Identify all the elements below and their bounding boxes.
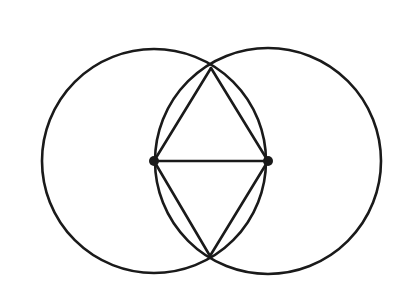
segment-left-to-top [154, 68, 211, 161]
segment-right-to-bottom [210, 161, 268, 256]
segment-right-to-top [211, 68, 268, 161]
segment-left-to-bottom [154, 161, 210, 256]
vesica-piscis-diagram [0, 0, 407, 298]
point-center-left [149, 156, 159, 166]
segments-group [154, 68, 268, 256]
point-center-right [263, 156, 273, 166]
